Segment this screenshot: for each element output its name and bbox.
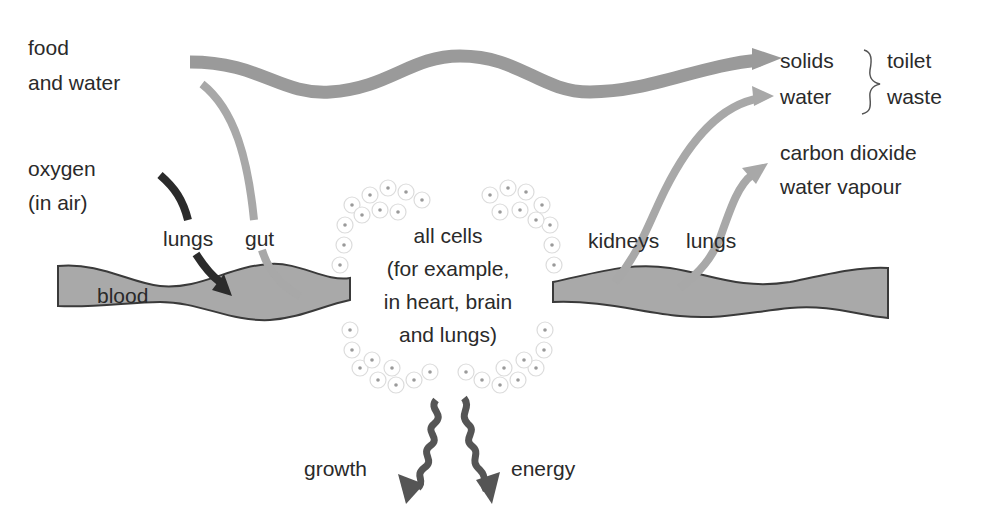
energy-arrowhead xyxy=(476,472,500,504)
kidneys-label: kidneys xyxy=(588,229,659,252)
blood-stream-right xyxy=(553,266,888,318)
co2-label: carbon dioxide xyxy=(780,141,917,164)
growth-label: growth xyxy=(304,457,367,480)
food-to-solids-arrow xyxy=(190,56,760,92)
cells-label-line4: and lungs) xyxy=(399,323,497,346)
water-label: water xyxy=(779,85,831,108)
gut-label: gut xyxy=(245,227,274,250)
blood-label: blood xyxy=(97,284,148,307)
growth-arrow xyxy=(418,400,438,488)
food-label-line2: and water xyxy=(28,71,120,94)
energy-arrow xyxy=(464,398,486,490)
vapour-label: water vapour xyxy=(779,175,901,198)
kidneys-arrowhead xyxy=(752,86,774,106)
lungs-out-label: lungs xyxy=(686,229,736,252)
cells-label-line1: all cells xyxy=(414,224,483,247)
cells-label-line2: (for example, xyxy=(387,257,510,280)
toilet-label: toilet xyxy=(887,49,932,72)
waste-label: waste xyxy=(886,85,942,108)
food-to-solids-arrowhead xyxy=(752,48,782,70)
body-systems-diagram: food and water oxygen (in air) lungs gut… xyxy=(0,0,1003,523)
food-label-line1: food xyxy=(28,36,69,59)
solids-label: solids xyxy=(780,49,834,72)
oxygen-label-line2: (in air) xyxy=(28,191,88,214)
brace-icon xyxy=(862,50,880,114)
energy-label: energy xyxy=(511,457,576,480)
lungs-in-label: lungs xyxy=(163,227,213,250)
cell-cluster xyxy=(332,180,562,393)
cells-label-line3: in heart, brain xyxy=(384,290,512,313)
oxygen-label-line1: oxygen xyxy=(28,157,96,180)
